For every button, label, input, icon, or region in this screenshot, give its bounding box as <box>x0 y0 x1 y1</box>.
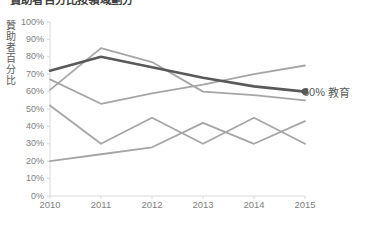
y-axis-tick-80: 80% <box>10 52 44 61</box>
y-axis-tick-20: 20% <box>10 157 44 166</box>
x-axis-tick-labels: 201020112012201320142015 <box>50 199 305 215</box>
x-axis-tick-2010: 2010 <box>28 199 72 211</box>
x-axis-tick-2014: 2014 <box>232 199 276 211</box>
y-axis-tick-70: 70% <box>10 70 44 79</box>
series-line-series-2 <box>50 48 305 100</box>
series-line-教育 <box>50 57 305 92</box>
series-lines <box>50 22 305 196</box>
x-axis-tick-2013: 2013 <box>181 199 225 211</box>
y-axis-tick-100: 100% <box>10 18 44 27</box>
series-line-series-5 <box>50 121 305 161</box>
chart-container: 贊助者百分比按領域劃分 贊助者百分比 0%10%20%30%40%50%60%7… <box>0 0 366 225</box>
plot-area <box>50 22 305 196</box>
y-axis-tick-10: 10% <box>10 174 44 183</box>
y-axis-tick-labels: 0%10%20%30%40%50%60%70%80%90%100% <box>8 0 44 225</box>
chart-title: 贊助者百分比按領域劃分 <box>10 0 270 5</box>
end-data-label: 60% 教育 <box>303 84 350 100</box>
x-axis-tick-2011: 2011 <box>79 199 123 211</box>
x-axis-tick-2015: 2015 <box>283 199 327 211</box>
y-axis-tick-90: 90% <box>10 35 44 44</box>
end-data-label-value: 60% <box>303 86 325 98</box>
y-axis-tick-50: 50% <box>10 105 44 114</box>
y-axis-tick-30: 30% <box>10 139 44 148</box>
end-data-label-name: 教育 <box>328 84 350 100</box>
x-axis-tick-2012: 2012 <box>130 199 174 211</box>
y-axis-tick-60: 60% <box>10 87 44 96</box>
y-axis-tick-40: 40% <box>10 122 44 131</box>
